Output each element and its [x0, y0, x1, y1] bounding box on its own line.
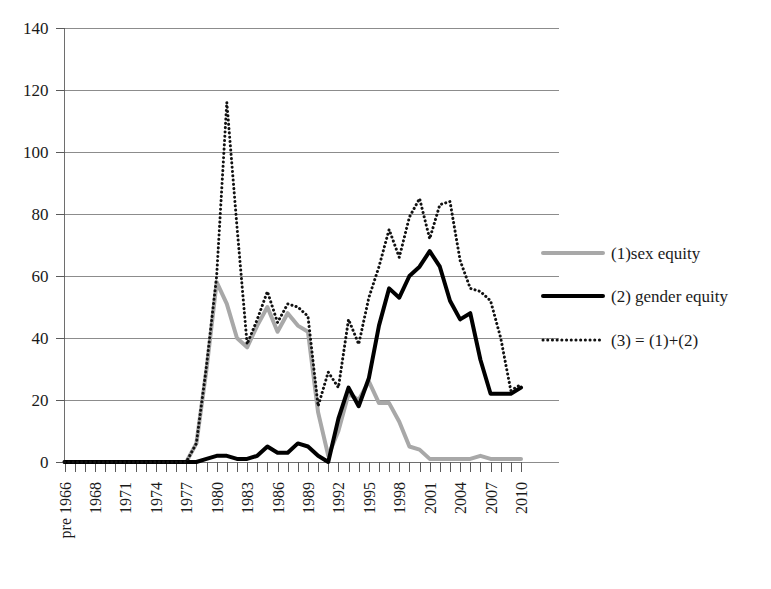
y-tick-label: 60: [32, 267, 49, 286]
x-tick-label: 2001: [422, 482, 439, 514]
x-tick-label: 1989: [300, 482, 317, 514]
y-tick-label: 80: [32, 205, 49, 224]
y-tick-label: 40: [32, 329, 49, 348]
x-tick-label: pre 1966: [57, 482, 75, 538]
x-tick-label: 1980: [209, 482, 226, 514]
y-tick-label: 20: [32, 391, 49, 410]
legend-label-3: (3) = (1)+(2): [611, 331, 698, 350]
y-tick-label: 140: [23, 19, 49, 38]
x-tick-label: 1968: [87, 482, 104, 514]
legend-label-2: (2) gender equity: [611, 287, 729, 306]
x-tick-label: 1983: [239, 482, 256, 514]
x-tick-label: 2004: [452, 482, 469, 514]
y-tick-label: 120: [23, 81, 49, 100]
x-tick-label: 1986: [270, 482, 287, 514]
x-tick-label: 1992: [330, 482, 347, 514]
x-tick-label: 1974: [148, 482, 165, 514]
chart-container: 020406080100120140 pre 19661968197119741…: [0, 0, 771, 589]
x-tick-label: 2010: [513, 482, 530, 514]
x-tick-label: 1995: [361, 482, 378, 514]
x-tick-label: 1998: [391, 482, 408, 514]
x-tick-label: 1977: [178, 482, 195, 514]
legend-label-1: (1)sex equity: [611, 244, 701, 263]
y-tick-label: 100: [23, 143, 49, 162]
line-chart: 020406080100120140 pre 19661968197119741…: [0, 0, 771, 589]
x-tick-label: 1971: [117, 482, 134, 514]
y-tick-label: 0: [40, 453, 49, 472]
x-tick-label: 2007: [483, 482, 500, 514]
